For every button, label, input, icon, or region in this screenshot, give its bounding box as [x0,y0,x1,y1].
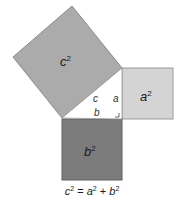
side-label-a: a [113,93,119,104]
pythagorean-diagram: c2 a2 b2 c a b c2 = a2 + b2 [0,0,183,206]
side-label-b: b [94,107,100,118]
side-label-c: c [93,93,98,104]
equation: c2 = a2 + b2 [65,185,120,197]
